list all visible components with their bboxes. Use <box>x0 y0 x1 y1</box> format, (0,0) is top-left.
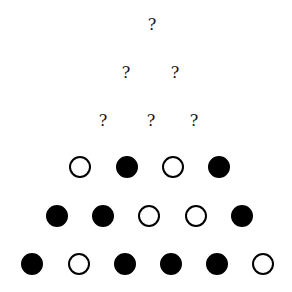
filled-circle-icon <box>208 156 230 178</box>
pattern-puzzle-diagram: ? ? ? ? ? ? <box>0 0 292 292</box>
filled-circle-icon <box>206 253 228 275</box>
open-circle-icon <box>68 253 90 275</box>
open-circle-icon <box>185 205 207 227</box>
filled-circle-icon <box>21 253 43 275</box>
filled-circle-icon <box>116 156 138 178</box>
filled-circle-icon <box>92 205 114 227</box>
unknown-mark: ? <box>190 113 199 129</box>
unknown-mark: ? <box>122 65 131 81</box>
filled-circle-icon <box>231 205 253 227</box>
open-circle-icon <box>162 156 184 178</box>
open-circle-icon <box>69 156 91 178</box>
unknown-mark: ? <box>99 113 108 129</box>
open-circle-icon <box>138 205 160 227</box>
unknown-mark: ? <box>147 113 156 129</box>
unknown-mark: ? <box>148 17 157 33</box>
filled-circle-icon <box>46 205 68 227</box>
open-circle-icon <box>252 253 274 275</box>
unknown-mark: ? <box>171 65 180 81</box>
filled-circle-icon <box>114 253 136 275</box>
filled-circle-icon <box>160 253 182 275</box>
